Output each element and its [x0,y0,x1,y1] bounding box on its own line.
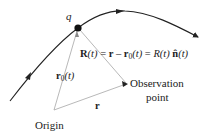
observation-point-label: Observation [130,77,184,89]
r-vector [54,84,126,110]
trajectory-arrowhead-icon [25,72,31,80]
trajectory-arrowhead-icon [116,9,124,14]
diagram-canvas: q R(t) = r – r0(t) = R(t) n̂(t) r0(t) r … [0,0,209,137]
r-label: r [95,100,100,111]
observation-point-label-line2: point [146,91,169,103]
origin-label: Origin [35,119,64,131]
equation-label: R(t) = r – r0(t) = R(t) n̂(t) [80,48,189,61]
r0-arrowhead-icon [75,31,79,37]
charge-dot [74,24,81,31]
r0-label: r0(t) [56,70,75,83]
charge-label: q [66,10,72,22]
